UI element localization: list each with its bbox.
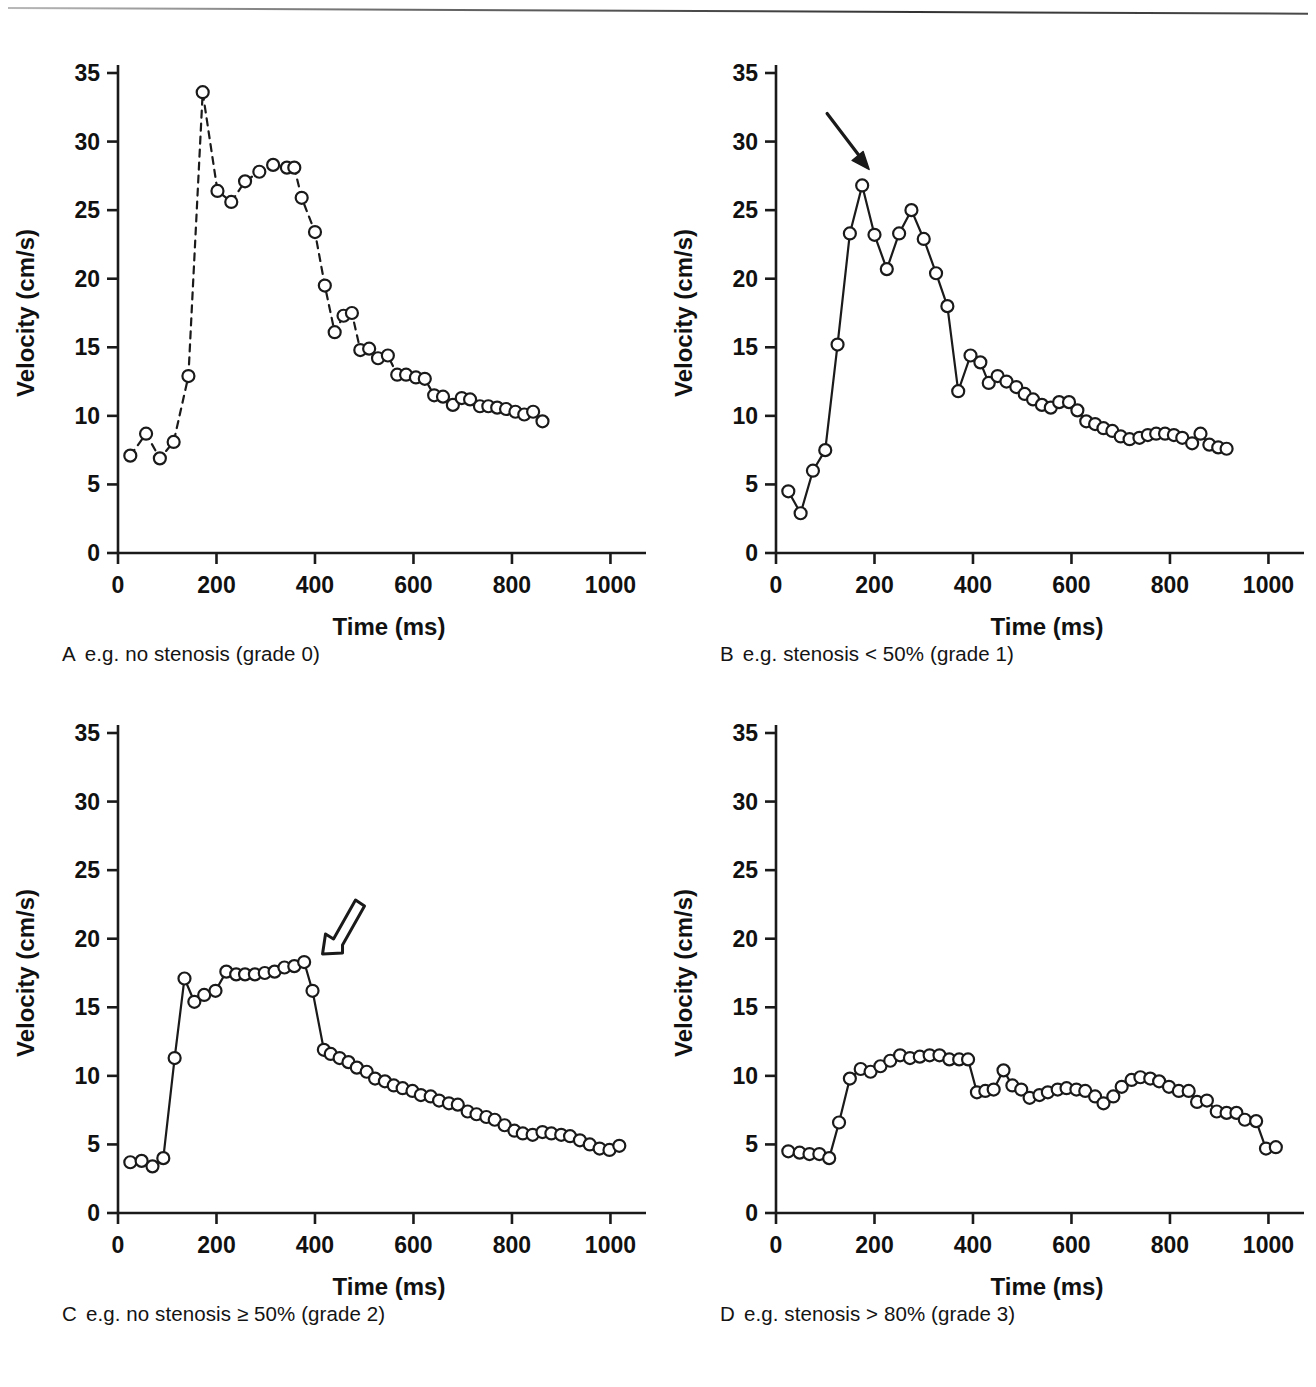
panel-b-caption-text: e.g. stenosis < 50% (grade 1) <box>743 642 1014 665</box>
figure-panel-grid: 0510152025303502004006008001000Time (ms)… <box>0 0 1316 1387</box>
x-axis-title: Time (ms) <box>991 613 1104 640</box>
y-tick-label: 30 <box>732 129 758 155</box>
annotation-arrow-outline-icon <box>323 900 365 954</box>
x-tick-label: 600 <box>394 1232 432 1258</box>
y-tick-label: 25 <box>732 197 758 223</box>
data-point-marker <box>1270 1141 1282 1153</box>
data-point-marker <box>613 1140 625 1152</box>
data-point-marker <box>329 326 341 338</box>
data-point-marker <box>823 1152 835 1164</box>
data-point-marker <box>1239 1114 1251 1126</box>
data-point-marker <box>197 86 209 98</box>
panel-a-letter: A <box>62 642 76 666</box>
data-point-marker <box>930 267 942 279</box>
data-point-marker <box>296 192 308 204</box>
panel-d-caption: De.g. stenosis > 80% (grade 3) <box>720 1302 1015 1326</box>
panel-c-caption-text: e.g. no stenosis ≥ 50% (grade 2) <box>86 1302 385 1325</box>
x-tick-label: 0 <box>770 1232 783 1258</box>
y-tick-label: 30 <box>74 789 100 815</box>
y-tick-label: 5 <box>745 471 758 497</box>
data-point-marker <box>346 307 358 319</box>
data-point-marker <box>905 204 917 216</box>
x-tick-label: 1000 <box>1243 572 1294 598</box>
y-tick-label: 25 <box>732 857 758 883</box>
panel-c-letter: C <box>62 1302 77 1326</box>
data-point-marker <box>198 989 210 1001</box>
x-tick-label: 200 <box>197 1232 235 1258</box>
data-point-marker <box>146 1160 158 1172</box>
data-point-marker <box>881 263 893 275</box>
x-tick-label: 0 <box>112 572 125 598</box>
data-point-marker <box>267 159 279 171</box>
y-tick-label: 35 <box>732 60 758 86</box>
y-tick-label: 5 <box>87 1131 100 1157</box>
data-point-marker <box>1071 404 1083 416</box>
panel-a-caption-text: e.g. no stenosis (grade 0) <box>85 642 320 665</box>
chart-panel-b: 0510152025303502004006008001000Time (ms)… <box>658 28 1316 688</box>
x-tick-label: 400 <box>954 1232 992 1258</box>
x-tick-label: 600 <box>1052 572 1090 598</box>
y-tick-label: 0 <box>87 540 100 566</box>
data-point-marker <box>832 339 844 351</box>
data-point-marker <box>795 507 807 519</box>
plot-d-svg: 0510152025303502004006008001000Time (ms)… <box>658 688 1316 1308</box>
data-point-marker <box>225 196 237 208</box>
data-point-marker <box>124 450 136 462</box>
y-tick-label: 35 <box>732 720 758 746</box>
y-tick-label: 15 <box>74 334 100 360</box>
y-tick-label: 30 <box>74 129 100 155</box>
plot-c-svg: 0510152025303502004006008001000Time (ms)… <box>0 688 658 1308</box>
chart-panel-d: 0510152025303502004006008001000Time (ms)… <box>658 688 1316 1348</box>
x-tick-label: 800 <box>493 1232 531 1258</box>
x-tick-label: 1000 <box>585 1232 636 1258</box>
y-tick-label: 10 <box>74 403 100 429</box>
y-tick-label: 25 <box>74 197 100 223</box>
chart-panel-c: 0510152025303502004006008001000Time (ms)… <box>0 688 658 1348</box>
y-tick-label: 0 <box>745 540 758 566</box>
data-point-marker <box>1194 428 1206 440</box>
x-tick-label: 400 <box>954 572 992 598</box>
data-point-marker <box>807 465 819 477</box>
data-point-marker <box>419 373 431 385</box>
plot-b-svg: 0510152025303502004006008001000Time (ms)… <box>658 28 1316 648</box>
x-tick-label: 600 <box>1052 1232 1090 1258</box>
x-tick-label: 1000 <box>1243 1232 1294 1258</box>
x-tick-label: 400 <box>296 572 334 598</box>
data-point-marker <box>1183 1085 1195 1097</box>
y-tick-label: 20 <box>74 266 100 292</box>
x-axis-title: Time (ms) <box>333 613 446 640</box>
data-point-marker <box>893 227 905 239</box>
x-tick-label: 800 <box>1151 572 1189 598</box>
data-point-marker <box>1250 1115 1262 1127</box>
y-axis-title: Velocity (cm/s) <box>670 889 697 1057</box>
data-point-marker <box>298 956 310 968</box>
y-tick-label: 10 <box>732 1063 758 1089</box>
data-point-marker <box>868 229 880 241</box>
panel-d-caption-text: e.g. stenosis > 80% (grade 3) <box>744 1302 1015 1325</box>
data-point-marker <box>998 1064 1010 1076</box>
data-point-marker <box>974 356 986 368</box>
x-tick-label: 0 <box>770 572 783 598</box>
y-tick-label: 20 <box>732 926 758 952</box>
x-tick-label: 600 <box>394 572 432 598</box>
y-tick-label: 5 <box>745 1131 758 1157</box>
data-point-marker <box>253 166 265 178</box>
x-tick-label: 200 <box>197 572 235 598</box>
x-tick-label: 0 <box>112 1232 125 1258</box>
y-tick-label: 35 <box>74 60 100 86</box>
y-axis-title: Velocity (cm/s) <box>12 889 39 1057</box>
data-point-marker <box>211 185 223 197</box>
y-tick-label: 15 <box>732 334 758 360</box>
data-point-marker <box>154 452 166 464</box>
y-tick-label: 10 <box>74 1063 100 1089</box>
panel-b-caption: Be.g. stenosis < 50% (grade 1) <box>720 642 1014 666</box>
data-point-marker <box>140 428 152 440</box>
y-axis-title: Velocity (cm/s) <box>12 229 39 397</box>
data-point-marker <box>288 162 300 174</box>
data-point-marker <box>536 415 548 427</box>
data-point-marker <box>833 1116 845 1128</box>
data-point-marker <box>844 227 856 239</box>
data-point-marker <box>169 1052 181 1064</box>
panel-a-caption: Ae.g. no stenosis (grade 0) <box>62 642 320 666</box>
x-tick-label: 200 <box>855 1232 893 1258</box>
